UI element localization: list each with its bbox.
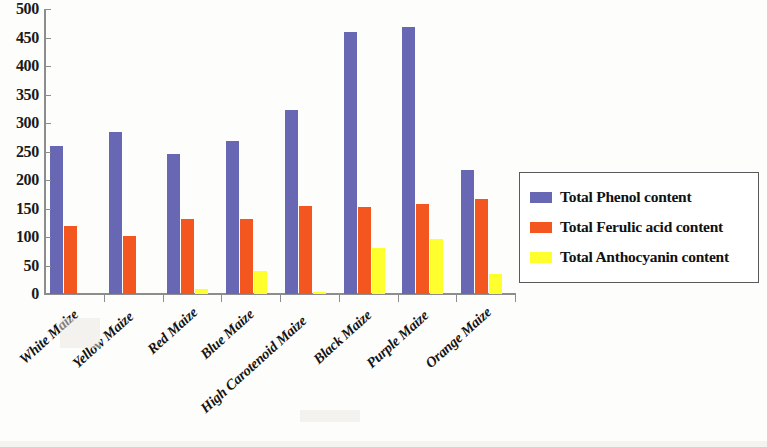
x-axis-tick-label: Red Maize: [144, 303, 201, 357]
y-axis-tick-mark: [44, 38, 51, 39]
bar-phenol: [226, 141, 239, 294]
legend-item[interactable]: Total Anthocyanin content: [530, 242, 750, 272]
bar-anthocyanin: [313, 292, 326, 294]
bar-ferulic: [181, 219, 194, 294]
y-axis-tick-labels: 050100150200250300350400450500: [0, 9, 39, 294]
x-axis-tick-label: Orange Maize: [422, 304, 495, 372]
bar-ferulic: [416, 204, 429, 294]
x-axis-tick-mark: [280, 295, 281, 302]
x-axis-tick-mark: [339, 295, 340, 302]
scan-artifact: [300, 410, 360, 422]
y-axis-tick-label: 150: [16, 200, 39, 218]
bar-group: [109, 9, 150, 294]
bar-anthocyanin: [372, 248, 385, 294]
y-axis-tick-label: 250: [16, 143, 39, 161]
legend-item[interactable]: Total Phenol content: [530, 182, 750, 212]
legend-label: Total Phenol content: [560, 188, 691, 206]
bar-anthocyanin: [430, 239, 443, 294]
bar-group: [461, 9, 502, 294]
y-axis-tick-mark: [44, 9, 51, 10]
legend-label: Total Anthocyanin content: [560, 248, 729, 266]
y-axis-tick-label: 50: [24, 257, 39, 275]
bar-phenol: [402, 27, 415, 294]
bar-chart-figure: 050100150200250300350400450500 White Mai…: [0, 0, 767, 447]
bar-group: [167, 9, 208, 294]
x-axis-tick-labels: White MaizeYellow MaizeRed MaizeBlue Mai…: [0, 296, 520, 406]
x-axis-tick-mark: [221, 295, 222, 302]
y-axis-tick-mark: [44, 209, 51, 210]
bar-anthocyanin: [489, 274, 502, 294]
bar-ferulic: [64, 226, 77, 294]
y-axis-tick-label: 200: [16, 171, 39, 189]
bar-group: [344, 9, 385, 294]
legend-label: Total Ferulic acid content: [560, 218, 723, 236]
bar-phenol: [167, 154, 180, 294]
y-axis-tick-mark: [44, 266, 51, 267]
scan-edge: [0, 441, 767, 447]
y-axis-tick-label: 300: [16, 114, 39, 132]
x-axis-tick-label: Blue Maize: [197, 305, 257, 362]
bar-ferulic: [123, 236, 136, 294]
y-axis-tick-mark: [44, 66, 51, 67]
bar-ferulic: [299, 206, 312, 294]
y-axis-tick-mark: [44, 123, 51, 124]
bar-group: [226, 9, 267, 294]
bar-phenol: [50, 146, 63, 294]
y-axis-tick-label: 450: [16, 29, 39, 47]
x-axis-tick-mark: [398, 295, 399, 302]
y-axis-tick-label: 350: [16, 86, 39, 104]
bar-phenol: [285, 110, 298, 294]
bar-ferulic: [358, 207, 371, 294]
bar-group: [402, 9, 443, 294]
x-axis-tick-mark: [163, 295, 164, 302]
x-axis-tick-mark: [456, 295, 457, 302]
y-axis-tick-mark: [44, 95, 51, 96]
bar-phenol: [109, 132, 122, 294]
bar-ferulic: [475, 199, 488, 294]
plot-area: [45, 9, 515, 294]
y-axis-tick-label: 400: [16, 57, 39, 75]
y-axis-tick-label: 500: [16, 0, 39, 18]
bar-anthocyanin: [195, 289, 208, 294]
legend-swatch-phenol: [530, 192, 552, 203]
y-axis-tick-label: 100: [16, 228, 39, 246]
bar-group: [50, 9, 91, 294]
legend-swatch-anthocyanin: [530, 252, 552, 263]
x-axis-tick-mark: [515, 295, 516, 302]
legend-item[interactable]: Total Ferulic acid content: [530, 212, 750, 242]
x-axis-tick-label: High Carotenoid Maize: [197, 313, 310, 417]
chart-legend: Total Phenol contentTotal Ferulic acid c…: [519, 172, 759, 283]
bar-group: [285, 9, 326, 294]
bar-ferulic: [240, 219, 253, 294]
y-axis-tick-mark: [44, 180, 51, 181]
legend-swatch-ferulic: [530, 222, 552, 233]
x-axis-tick-mark: [104, 295, 105, 302]
bar-phenol: [344, 32, 357, 294]
y-axis-tick-mark: [44, 152, 51, 153]
y-axis-tick-mark: [44, 237, 51, 238]
bar-anthocyanin: [254, 271, 267, 294]
bar-phenol: [461, 170, 474, 294]
